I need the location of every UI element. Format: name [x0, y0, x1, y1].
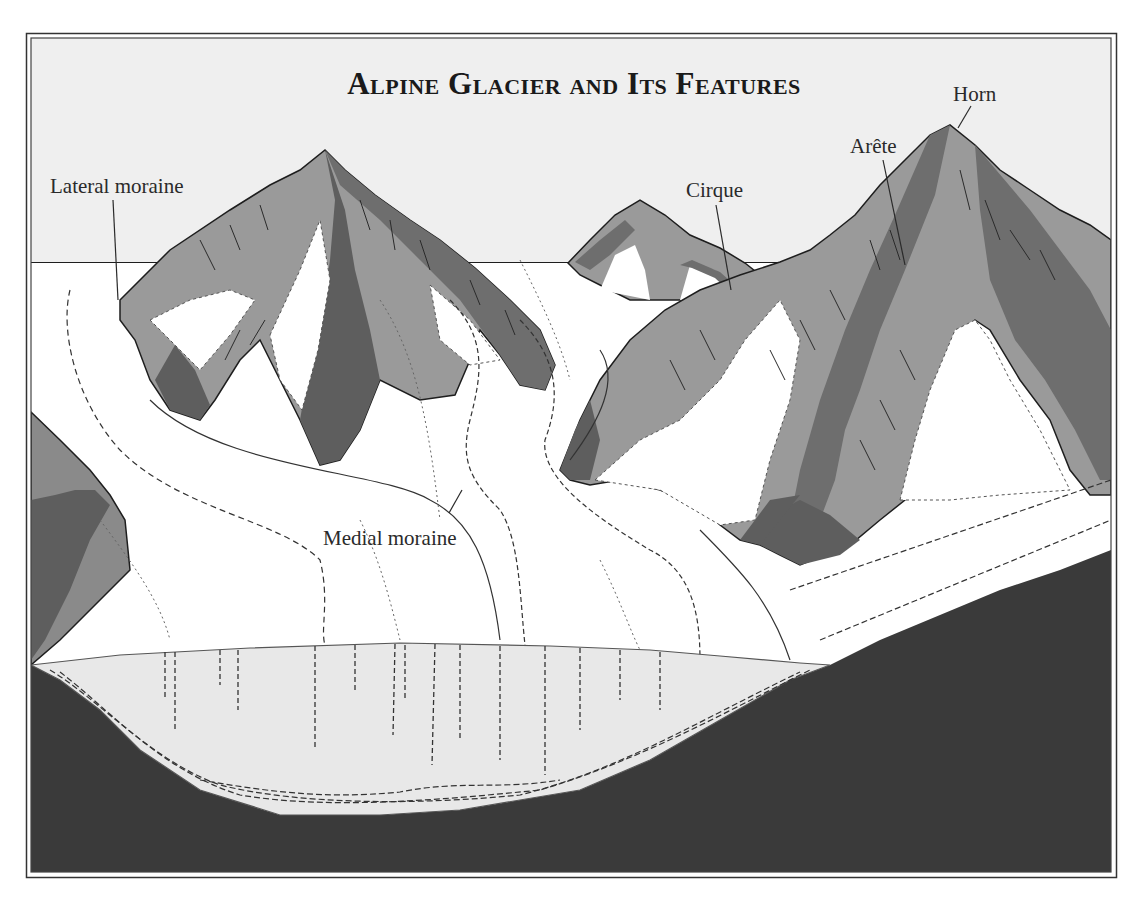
glacier-illustration [0, 0, 1140, 900]
label-arete: Arête [850, 136, 897, 157]
label-horn: Horn [953, 84, 996, 105]
label-cirque: Cirque [686, 180, 743, 201]
alpine-glacier-diagram: Alpine Glacier and Its Features Lateral … [0, 0, 1140, 900]
label-lateral-moraine: Lateral moraine [50, 176, 184, 197]
label-medial-moraine: Medial moraine [323, 528, 457, 549]
